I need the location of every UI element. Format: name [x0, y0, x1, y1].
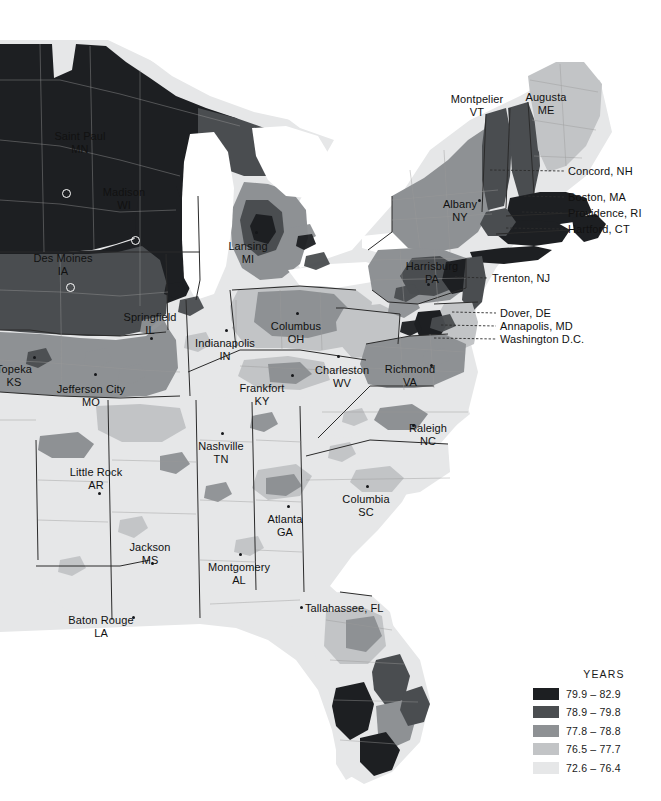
state-abbrev: AL [208, 574, 270, 587]
city-label-harrisburg: HarrisburgPA [406, 260, 458, 285]
capital-marker [131, 236, 140, 245]
state-abbrev: LA [68, 627, 133, 640]
state-abbrev: SC [342, 506, 389, 519]
city-name: Frankfort [240, 382, 285, 394]
state-abbrev: IL [123, 324, 176, 337]
city-name: Charleston [315, 364, 369, 376]
legend-label: 79.9 – 82.9 [566, 688, 621, 700]
city-label-montgomery: MontgomeryAL [208, 561, 270, 586]
legend-rows: 79.9 – 82.978.9 – 79.877.8 – 78.876.5 – … [533, 686, 657, 775]
state-abbrev: MO [57, 396, 125, 409]
city-label-lansing: LansingMI [228, 240, 267, 265]
legend-title: YEARS [551, 668, 657, 680]
callout-label-trenton-nj: Trenton, NJ [492, 272, 550, 284]
state-abbrev: VA [385, 376, 435, 389]
legend-label: 76.5 – 77.7 [566, 743, 621, 755]
capital-marker [66, 283, 75, 292]
city-label-indianapolis: IndianapolisIN [195, 337, 255, 362]
legend-swatch [533, 706, 559, 718]
city-name: Indianapolis [195, 337, 255, 349]
city-label-augusta: AugustaME [525, 91, 566, 116]
callout-label-annapolis-md: Annapolis, MD [500, 320, 573, 332]
callout-label-boston-ma: Boston, MA [568, 191, 626, 203]
city-name: Lansing [228, 240, 267, 252]
legend-swatch [533, 688, 559, 700]
state-abbrev: VT [451, 106, 503, 119]
legend-row: 78.9 – 79.8 [533, 705, 657, 720]
state-abbrev: NC [409, 435, 447, 448]
legend-row: 72.6 – 76.4 [533, 760, 657, 775]
city-name: Columbus [271, 320, 321, 332]
legend-swatch [533, 743, 559, 755]
city-label-baton-rouge: Baton RougeLA [68, 614, 133, 639]
city-name: Jefferson City [57, 383, 125, 395]
map-figure: .c1{fill:#1d1f22} .c2{fill:#4a4d50} .c3{… [0, 0, 661, 801]
city-name: Albany [443, 198, 477, 210]
callout-label-washington-d-c-: Washington D.C. [500, 333, 584, 345]
city-label-little-rock: Little RockAR [70, 466, 122, 491]
state-abbrev: WI [103, 199, 145, 212]
capital-marker [62, 189, 71, 198]
inline-city-label: Tallahassee, FL [305, 602, 384, 615]
city-label-nashville: NashvilleTN [198, 440, 244, 465]
city-label-topeka: TopekaKS [0, 363, 32, 388]
city-label-madison: MadisonWI [103, 186, 145, 211]
legend-label: 78.9 – 79.8 [566, 706, 621, 718]
city-name: Montgomery [208, 561, 270, 573]
state-abbrev: MN [54, 143, 105, 156]
callout-label-dover-de: Dover, DE [500, 307, 551, 319]
city-name: Nashville [198, 440, 244, 452]
legend-swatch [533, 762, 559, 774]
legend: YEARS 79.9 – 82.978.9 – 79.877.8 – 78.87… [533, 668, 657, 779]
state-abbrev: KS [0, 376, 32, 389]
city-label-springfield: SpringfieldIL [123, 311, 176, 336]
callout-label-providence-ri: Providence, RI [568, 207, 642, 219]
city-label-columbus: ColumbusOH [271, 320, 321, 345]
city-name: Saint Paul [54, 130, 105, 142]
city-label-richmond: RichmondVA [385, 363, 435, 388]
callout-label-hartford-ct: Hartford, CT [568, 223, 630, 235]
city-name: Augusta [525, 91, 566, 103]
state-abbrev: GA [268, 526, 303, 539]
city-name: Jackson [129, 541, 170, 553]
city-name: Little Rock [70, 466, 122, 478]
city-label-saint-paul: Saint PaulMN [54, 130, 105, 155]
city-name: Topeka [0, 363, 32, 375]
city-label-jefferson-city: Jefferson CityMO [57, 383, 125, 408]
city-label-montpelier: MontpelierVT [451, 93, 503, 118]
city-label-atlanta: AtlantaGA [268, 513, 303, 538]
callout-label-concord-nh: Concord, NH [568, 165, 633, 177]
state-abbrev: IA [33, 265, 92, 278]
legend-label: 77.8 – 78.8 [566, 725, 621, 737]
city-name: Springfield [123, 311, 176, 323]
state-abbrev: WV [315, 377, 369, 390]
city-name: Harrisburg [406, 260, 458, 272]
city-name: Montpelier [451, 93, 503, 105]
legend-row: 76.5 – 77.7 [533, 742, 657, 757]
city-name: Madison [103, 186, 145, 198]
state-abbrev: PA [406, 273, 458, 286]
state-abbrev: ME [525, 104, 566, 117]
city-label-des-moines: Des MoinesIA [33, 252, 92, 277]
state-abbrev: IN [195, 350, 255, 363]
city-name: Des Moines [33, 252, 92, 264]
city-label-columbia: ColumbiaSC [342, 493, 389, 518]
city-label-frankfort: FrankfortKY [240, 382, 285, 407]
city-label-jackson: JacksonMS [129, 541, 170, 566]
city-label-albany: AlbanyNY [443, 198, 477, 223]
legend-row: 79.9 – 82.9 [533, 686, 657, 701]
state-abbrev: NY [443, 211, 477, 224]
state-abbrev: TN [198, 453, 244, 466]
city-label-charleston: CharlestonWV [315, 364, 369, 389]
city-name: Columbia [342, 493, 389, 505]
legend-swatch [533, 725, 559, 737]
state-abbrev: MI [228, 253, 267, 266]
state-abbrev: AR [70, 479, 122, 492]
state-abbrev: OH [271, 333, 321, 346]
state-abbrev: KY [240, 395, 285, 408]
city-name: Atlanta [268, 513, 303, 525]
state-abbrev: MS [129, 554, 170, 567]
city-name: Richmond [385, 363, 435, 375]
legend-row: 77.8 – 78.8 [533, 723, 657, 738]
legend-label: 72.6 – 76.4 [566, 762, 621, 774]
